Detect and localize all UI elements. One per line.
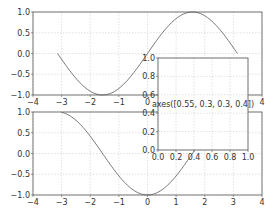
- y-tick-label: 1.0: [17, 108, 30, 117]
- y-tick-label: 0.8: [142, 72, 155, 81]
- x-tick-label: 3: [231, 198, 236, 207]
- y-tick-label: −1.0: [11, 91, 30, 100]
- x-tick-label: −2: [84, 198, 96, 207]
- x-tick-label: 0.6: [206, 153, 219, 162]
- x-tick-label: −1: [113, 198, 125, 207]
- x-tick-label: −2: [84, 98, 96, 107]
- y-tick-label: 0.2: [142, 128, 155, 137]
- x-tick-label: 0.4: [188, 153, 201, 162]
- x-tick-label: 4: [259, 98, 264, 107]
- y-tick-label: 1.0: [17, 8, 30, 17]
- x-tick-label: 2: [202, 198, 207, 207]
- y-tick-label: 0.4: [142, 109, 155, 118]
- y-tick-label: −0.5: [11, 170, 30, 179]
- y-tick-label: 0.5: [17, 29, 30, 38]
- x-tick-label: 0.8: [224, 153, 237, 162]
- y-tick-label: 0.0: [17, 50, 30, 59]
- x-tick-label: −3: [56, 198, 68, 207]
- x-tick-label: 0: [145, 198, 150, 207]
- y-tick-label: 0.0: [17, 150, 30, 159]
- y-tick-label: −0.5: [11, 70, 30, 79]
- inset-axes: 0.00.20.40.60.81.01.00.80.60.40.20.0axes…: [142, 54, 254, 162]
- y-tick-label: −1.0: [11, 191, 30, 200]
- x-tick-label: −3: [56, 98, 68, 107]
- figure: −4−3−2−1012341.00.50.0−0.5−1.0−4−3−2−101…: [0, 0, 273, 213]
- x-tick-label: 1.0: [242, 153, 255, 162]
- y-tick-label: 1.0: [142, 54, 155, 63]
- x-tick-label: 1: [174, 198, 179, 207]
- x-tick-label: 4: [259, 198, 264, 207]
- axes-annotation: axes([0.55, 0.3, 0.3, 0.4]): [152, 100, 254, 109]
- x-tick-label: 0.2: [170, 153, 183, 162]
- y-tick-label: 0.0: [142, 146, 155, 155]
- x-tick-label: −1: [113, 98, 125, 107]
- y-tick-label: 0.5: [17, 129, 30, 138]
- y-tick-label: 0.6: [142, 91, 155, 100]
